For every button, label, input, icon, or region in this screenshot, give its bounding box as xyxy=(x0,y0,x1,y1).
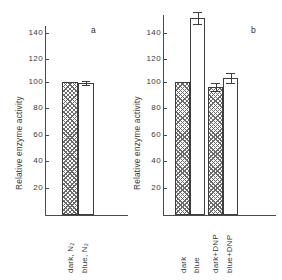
panel-b: 140 120 100 80 60 40 20 Relative enzyme … xyxy=(141,0,282,280)
panel-b-category-label-blue: blue xyxy=(192,257,201,273)
panel-a-x-axis xyxy=(45,215,128,216)
figure: 140 120 100 80 60 40 20 Relative enzyme … xyxy=(0,0,282,280)
panel-a-tick-120 xyxy=(46,59,49,60)
panel-b-y-axis xyxy=(163,15,164,216)
panel-b-tick-label-120: 120 xyxy=(137,55,161,63)
panel-b-tick-100 xyxy=(164,82,167,83)
panel-b-y-axis-title: Relative enzyme activity xyxy=(132,96,142,190)
panel-a-y-axis-title: Relative enzyme activity xyxy=(14,96,24,190)
panel-b-tick-20 xyxy=(164,188,167,189)
panel-a-errorbar-blue-n2 xyxy=(82,81,90,86)
panel-a-tick-100 xyxy=(46,82,49,83)
panel-b-category-label-dark: dark xyxy=(179,257,188,273)
panel-a-tick-20 xyxy=(46,188,49,189)
panel-b-category-label-dark-dnp: dark+DNP xyxy=(211,234,220,273)
panel-a-bar-dark-n2 xyxy=(62,82,78,215)
panel-b-tick-label-140: 140 xyxy=(137,29,161,37)
panel-a-tick-label-120: 120 xyxy=(19,55,43,63)
panel-a-category-label-blue-n2: blue, N₂ xyxy=(80,243,89,273)
panel-b-tick-120 xyxy=(164,59,167,60)
panel-b-errorbar-blue-dnp xyxy=(226,73,235,84)
panel-b-tick-40 xyxy=(164,161,167,162)
panel-b-bar-dark-dnp xyxy=(208,87,223,215)
panel-b-tick-80 xyxy=(164,108,167,109)
panel-a: 140 120 100 80 60 40 20 Relative enzyme … xyxy=(0,0,141,280)
panel-b-bar-blue-dnp xyxy=(223,78,238,215)
panel-b-x-axis xyxy=(163,215,276,216)
panel-a-category-label-dark-n2: dark, N₂ xyxy=(66,243,75,274)
panel-a-tick-60 xyxy=(46,135,49,136)
panel-a-tick-140 xyxy=(46,33,49,34)
panel-a-tick-label-100: 100 xyxy=(19,78,43,86)
panel-a-letter: a xyxy=(91,25,96,35)
panel-b-errorbar-dark-dnp xyxy=(211,83,220,92)
panel-b-letter: b xyxy=(251,25,256,35)
panel-a-tick-40 xyxy=(46,161,49,162)
panel-a-bar-blue-n2 xyxy=(78,83,94,215)
panel-b-tick-60 xyxy=(164,135,167,136)
panel-b-tick-label-100: 100 xyxy=(137,78,161,86)
panel-a-tick-80 xyxy=(46,108,49,109)
panel-b-bar-dark xyxy=(175,82,190,215)
panel-b-category-label-blue-dnp: blue+DNP xyxy=(225,235,234,273)
panel-b-errorbar-blue xyxy=(193,12,202,25)
panel-b-bar-blue xyxy=(190,18,205,215)
panel-b-tick-140 xyxy=(164,33,167,34)
panel-a-tick-label-140: 140 xyxy=(19,29,43,37)
